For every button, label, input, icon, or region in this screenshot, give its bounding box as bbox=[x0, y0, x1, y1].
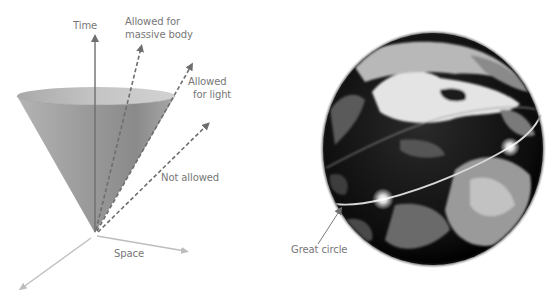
space-axis-label: Space bbox=[114, 248, 144, 260]
cone-body bbox=[17, 96, 175, 233]
great-circle-label: Great circle bbox=[291, 244, 347, 256]
space-axis-y bbox=[22, 238, 91, 288]
light-label-line1: Allowed bbox=[188, 76, 227, 88]
glow-point-left bbox=[372, 188, 394, 210]
not-allowed-label: Not allowed bbox=[161, 172, 219, 184]
space-axes bbox=[22, 236, 185, 288]
time-axis-label: Time bbox=[73, 20, 97, 32]
glow-point-right bbox=[500, 137, 520, 157]
great-circle-callout-arrow bbox=[318, 210, 340, 244]
massive-body-label-line1: Allowed for bbox=[125, 16, 180, 28]
earth-globe bbox=[323, 33, 543, 265]
light-cone-diagram bbox=[0, 0, 560, 296]
massive-body-label-line2: massive body bbox=[125, 29, 193, 41]
light-cone bbox=[17, 87, 175, 233]
light-label-line2: for light bbox=[193, 89, 231, 101]
